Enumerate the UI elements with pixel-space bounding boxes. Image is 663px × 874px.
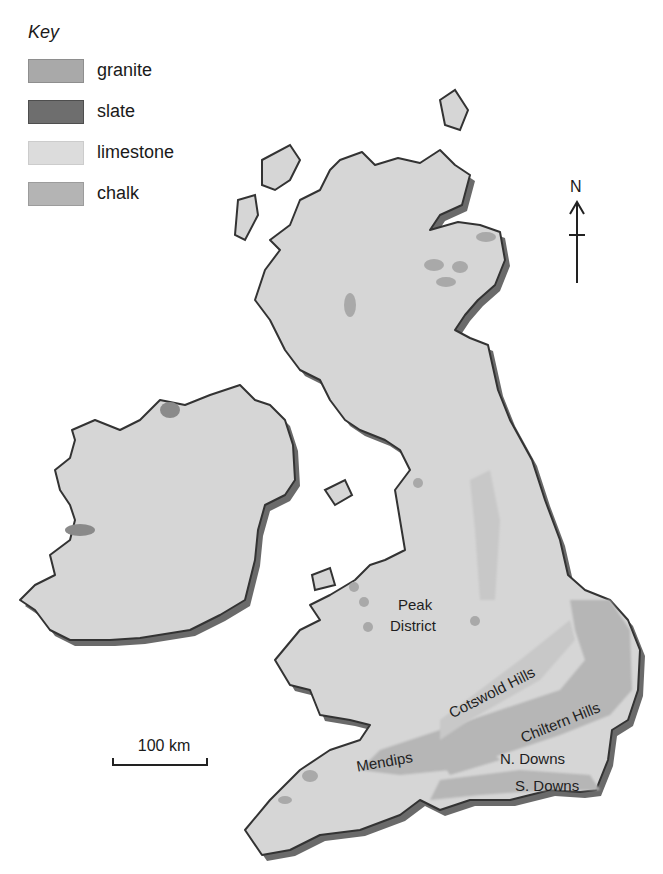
key-label: granite [97, 60, 152, 81]
north-arrow: N [567, 178, 589, 288]
north-arrow-icon [567, 178, 589, 288]
granite-swatch [28, 59, 84, 83]
key-item-granite: granite [28, 57, 174, 84]
map-key: Key granite slate limestone chalk [28, 22, 174, 207]
key-label: limestone [97, 142, 174, 163]
key-title: Key [28, 22, 174, 43]
key-item-limestone: limestone [28, 139, 174, 166]
label-south-downs: S. Downs [515, 777, 579, 794]
key-item-chalk: chalk [28, 180, 174, 207]
scale-bar-line [112, 758, 208, 766]
label-peak: Peak [398, 596, 432, 613]
scale-bar: 100 km [112, 737, 208, 766]
slate-swatch [28, 100, 84, 124]
scale-label: 100 km [120, 737, 208, 755]
label-north-downs: N. Downs [500, 750, 565, 767]
limestone-swatch [28, 141, 84, 165]
label-district: District [390, 617, 436, 634]
key-item-slate: slate [28, 98, 174, 125]
chalk-swatch [28, 182, 84, 206]
key-label: chalk [97, 183, 139, 204]
ireland-landmass [20, 385, 295, 640]
key-label: slate [97, 101, 135, 122]
